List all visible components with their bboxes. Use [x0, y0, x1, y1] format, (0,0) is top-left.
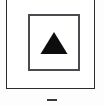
- triangle-up-icon: [40, 31, 68, 54]
- triangle-swatch-button[interactable]: [28, 14, 80, 71]
- caption-label: [47, 99, 57, 101]
- screen-root: [0, 0, 104, 106]
- bordered-panel: [6, 0, 95, 89]
